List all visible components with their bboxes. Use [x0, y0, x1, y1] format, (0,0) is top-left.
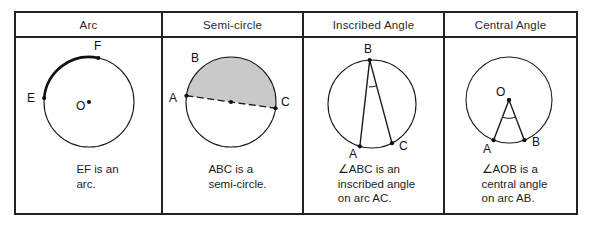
center-label-O: O [76, 99, 85, 113]
column-header-central-angle: Central Angle [443, 13, 576, 36]
point-A [491, 138, 495, 142]
cell-arc: O E F EF is an arc. [16, 38, 161, 213]
caption-inscribed-angle: ∠ABC is an inscribed angle on arc AC. [338, 162, 415, 206]
caption-central-angle: ∠AOB is a central angle on arc AB. [482, 162, 548, 206]
cell-inscribed-angle: B A C ∠ABC is an inscribed angle on arc … [302, 38, 443, 213]
column-header-semi-circle: Semi-circle [161, 13, 302, 36]
ray-BC [369, 60, 391, 143]
point-A [357, 144, 361, 148]
circle-outline [328, 60, 416, 148]
figure-central-angle: O A B [447, 40, 575, 160]
column-header-inscribed-angle: Inscribed Angle [302, 13, 443, 36]
point-B [522, 138, 526, 142]
angle-mark-O [502, 117, 515, 118]
central-angle-diagram-svg: O A B [447, 40, 575, 160]
point-label-E: E [27, 91, 35, 105]
point-label-A: A [349, 147, 357, 161]
center-point [229, 100, 233, 104]
point-label-C: C [399, 139, 408, 153]
table-body-row: O E F EF is an arc. [16, 38, 576, 213]
angle-mark-B [368, 86, 376, 87]
figure-arc: O E F [19, 40, 159, 160]
point-C [389, 141, 393, 145]
point-B [367, 58, 371, 62]
point-E [42, 96, 46, 100]
figure-inscribed-angle: B A C [306, 40, 442, 160]
point-label-B: B [532, 135, 540, 149]
inscribed-angle-diagram-svg: B A C [306, 40, 442, 160]
point-C [273, 106, 277, 110]
cell-semi-circle: A B C ABC is a semi-circle. [161, 38, 302, 213]
point-label-A: A [169, 91, 177, 105]
point-label-C: C [281, 95, 290, 109]
column-header-arc: Arc [16, 13, 161, 36]
cell-central-angle: O A B ∠AOB is a central angle on arc AB. [443, 38, 576, 213]
point-A [184, 94, 188, 98]
center-point-O [87, 100, 91, 104]
table-header-row: Arc Semi-circle Inscribed Angle Central … [16, 13, 576, 38]
point-label-A: A [483, 142, 491, 156]
caption-arc: EF is an arc. [76, 162, 118, 191]
point-label-F: F [94, 39, 101, 53]
bold-arc-EF [44, 57, 98, 98]
geometry-reference-sheet: Arc Semi-circle Inscribed Angle Central … [0, 0, 594, 228]
center-label-O: O [496, 85, 505, 99]
point-F [96, 56, 100, 60]
radius-OB [509, 100, 524, 140]
point-label-B: B [364, 42, 372, 56]
ray-BA [359, 60, 369, 146]
circle-terms-table: Arc Semi-circle Inscribed Angle Central … [14, 11, 578, 215]
point-label-B: B [191, 51, 199, 65]
radius-OA [493, 100, 508, 140]
figure-semi-circle: A B C [165, 40, 301, 160]
center-point-O [506, 98, 510, 102]
arc-diagram-svg: O E F [19, 40, 159, 160]
semi-circle-diagram-svg: A B C [165, 40, 301, 160]
caption-semi-circle: ABC is a semi-circle. [208, 162, 266, 191]
